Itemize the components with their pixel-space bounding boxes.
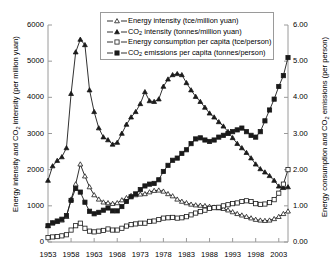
y-axis-right-tick: 1.00 xyxy=(293,202,321,210)
legend-item: CO2 emissions per capita (tonnes/person) xyxy=(106,48,269,59)
y-axis-left-tick: 0 xyxy=(16,238,44,246)
legend-marker-filled-triangle-icon xyxy=(106,27,128,37)
y-axis-left-tick: 1000 xyxy=(16,202,44,210)
y-axis-right-tick: 3.00 xyxy=(293,130,321,138)
y-axis-left-tick: 2000 xyxy=(16,166,44,174)
chart-figure: Energy intensity and CO2 intensity (per … xyxy=(0,0,333,275)
y-axis-right-title: Energy consumption and CO2 emissions (pe… xyxy=(321,27,329,227)
legend-marker-filled-square-icon xyxy=(106,48,128,58)
y-axis-right-title-post: emissions (per person) xyxy=(320,37,329,116)
legend-label: CO2 intensity (tonnes/million yuan) xyxy=(128,28,242,36)
legend-marker-open-triangle-icon xyxy=(106,16,128,26)
y-axis-left-tick: 5000 xyxy=(16,57,44,65)
legend-marker-open-square-icon xyxy=(106,37,128,47)
y-axis-right-tick: 2.00 xyxy=(293,166,321,174)
y-axis-right-tick: 4.00 xyxy=(293,93,321,101)
y-axis-left-tick: 6000 xyxy=(16,21,44,29)
y-axis-right-tick: 0.00 xyxy=(293,238,321,246)
legend-label: CO2 emissions per capita (tonnes/person) xyxy=(128,49,265,57)
x-axis-tick: 2003 xyxy=(264,251,294,259)
chart-legend: Energy intensity (tce/million yuan)CO2 i… xyxy=(100,12,274,60)
y-axis-left-tick: 3000 xyxy=(16,130,44,138)
y-axis-left-title: Energy intensity and CO2 intensity (per … xyxy=(12,24,20,224)
legend-item: Energy consumption per capita (tce/perso… xyxy=(106,37,269,48)
y-axis-right-title-pre: Energy consumption and CO xyxy=(320,119,329,217)
y-axis-right-tick: 6.00 xyxy=(293,21,321,29)
y-axis-left-title-post: intensity (per million yuan) xyxy=(11,36,20,126)
y-axis-left-tick: 4000 xyxy=(16,93,44,101)
legend-label: Energy consumption per capita (tce/perso… xyxy=(128,38,271,46)
y-axis-right-tick: 5.00 xyxy=(293,57,321,65)
legend-item: CO2 intensity (tonnes/million yuan) xyxy=(106,27,269,38)
legend-label: Energy intensity (tce/million yuan) xyxy=(128,17,239,25)
legend-item: Energy intensity (tce/million yuan) xyxy=(106,16,269,27)
